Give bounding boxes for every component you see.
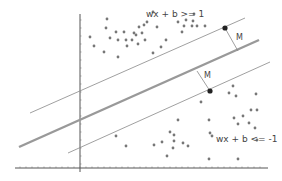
data-point [153, 144, 156, 147]
data-point [103, 51, 106, 54]
data-point [183, 25, 186, 28]
data-point [250, 109, 253, 112]
data-point [117, 39, 120, 42]
data-point [237, 123, 240, 126]
data-point [177, 119, 180, 122]
data-point [125, 39, 128, 42]
data-point [233, 117, 236, 120]
data-point [196, 25, 199, 28]
data-point [138, 26, 141, 29]
upper-margin-line [30, 18, 245, 113]
data-point [181, 31, 184, 34]
data-point [182, 142, 185, 145]
data-point [166, 155, 169, 158]
data-point [177, 21, 180, 24]
upper-margin-label: M [236, 33, 243, 42]
data-point [131, 39, 134, 42]
data-point [187, 145, 190, 148]
data-point [211, 135, 214, 138]
data-point [208, 119, 211, 122]
lower-margin-label: M [204, 71, 211, 80]
data-point [160, 46, 163, 49]
data-point [173, 134, 176, 137]
separating-hyperplane [19, 40, 259, 147]
data-point [161, 141, 164, 144]
data-point [115, 31, 118, 34]
data-point [209, 132, 212, 135]
data-point [228, 92, 231, 95]
data-point [165, 39, 168, 42]
data-point [191, 25, 194, 28]
data-point [135, 34, 138, 37]
data-point [115, 135, 118, 138]
data-point [152, 52, 155, 55]
data-point [125, 145, 128, 148]
data-point [169, 131, 172, 134]
x-axis-ticks [20, 167, 260, 169]
data-point [137, 43, 140, 46]
data-point [242, 115, 245, 118]
data-point [192, 20, 195, 23]
data-point [126, 45, 129, 48]
lower-constraint-label: wx + b <= -1 [216, 134, 277, 144]
data-point [235, 95, 238, 98]
data-point [141, 32, 144, 35]
data-point [105, 27, 108, 30]
data-point [232, 85, 235, 88]
data-point [133, 32, 136, 35]
data-point [208, 158, 211, 161]
support-vector-point [222, 25, 227, 30]
data-point [256, 109, 259, 112]
support-vector-point [207, 88, 212, 93]
data-point [106, 18, 109, 21]
data-point [248, 122, 251, 125]
data-point [254, 127, 257, 130]
data-point [200, 101, 203, 104]
data-point [185, 19, 188, 22]
data-point [143, 24, 146, 27]
data-point [146, 21, 149, 24]
data-point [255, 93, 258, 96]
data-point [123, 31, 126, 34]
svm-diagram: wx + b >= 1 wx + b <= -1 M M [0, 0, 282, 181]
data-point [237, 158, 240, 161]
upper-constraint-label: wx + b >= 1 [146, 9, 204, 19]
data-point [89, 36, 92, 39]
data-point [144, 39, 147, 42]
data-point [117, 56, 120, 59]
data-point [204, 25, 207, 28]
data-point [173, 140, 176, 143]
data-point [172, 147, 175, 150]
data-point [109, 37, 112, 40]
data-point [156, 26, 159, 29]
data-point [93, 45, 96, 48]
